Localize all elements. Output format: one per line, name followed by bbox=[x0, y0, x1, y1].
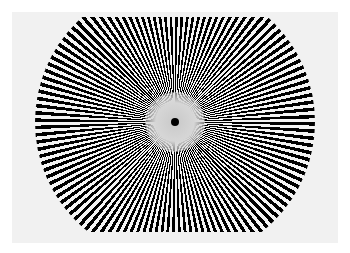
cropped-caption-text bbox=[0, 0, 350, 2]
star-clip-region bbox=[12, 17, 338, 232]
figure-panel bbox=[12, 12, 338, 243]
center-dot bbox=[171, 118, 179, 126]
